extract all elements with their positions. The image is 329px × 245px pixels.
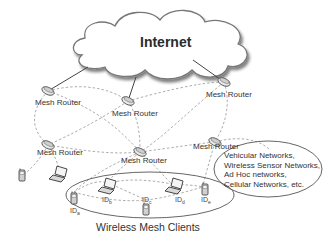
client-id-label: IDd <box>175 196 185 205</box>
client-id-label: IDb <box>102 196 112 205</box>
clients-boundary <box>66 172 234 218</box>
wireless-mesh-network-diagram: Internet Mesh Router Mesh Router Mesh Ro… <box>0 0 329 245</box>
router-label: Mesh Router <box>193 143 239 151</box>
internet-label: Internet <box>140 34 191 50</box>
client-id-label: IDc <box>142 196 152 205</box>
client-id-label: IDa <box>70 207 80 216</box>
router-icon <box>41 85 56 97</box>
laptop-icon <box>49 166 67 182</box>
wireless-mesh-clients-title: Wireless Mesh Clients <box>96 221 200 233</box>
external-network-item: Vehicular Networks, <box>224 151 320 161</box>
router-label: Mesh Router <box>206 91 252 99</box>
phone-icon <box>202 183 208 196</box>
laptop-icon <box>165 178 183 194</box>
external-networks-list: Vehicular Networks, Wireless Sensor Netw… <box>224 151 320 189</box>
external-network-item: Ad Hoc networks, <box>224 170 320 180</box>
router-label: Mesh Router <box>37 149 83 157</box>
router-label: Mesh Router <box>112 110 158 118</box>
external-network-item: Wireless Sensor Networks, <box>224 161 320 171</box>
client-id-label: IDe <box>201 196 211 205</box>
router-label: Mesh Router <box>35 99 81 107</box>
phone-icon <box>71 192 77 205</box>
router-icon <box>121 95 136 107</box>
laptop-icon <box>98 178 116 194</box>
phone-icon <box>19 169 25 182</box>
router-label: Mesh Router <box>121 157 167 165</box>
external-network-item: Cellular Networks, etc. <box>224 180 320 190</box>
